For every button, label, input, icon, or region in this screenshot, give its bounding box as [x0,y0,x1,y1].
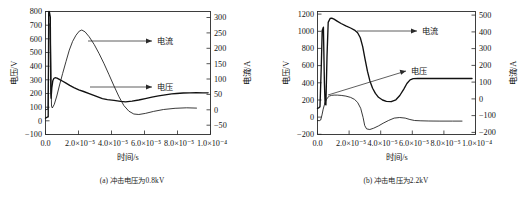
y2-tick-label: 300 [214,13,226,22]
y-tick-label: 200 [30,89,42,98]
y-tick-label: −100 [25,130,42,139]
y2-axis-ticks-a [207,18,211,126]
y-tick-label: 800 [30,7,42,16]
x-tick-label: 4.0×10⁻⁵ [98,139,128,148]
y2-tick-label: −200 [479,128,496,137]
x-tick-label: 6.0×10⁻⁵ [399,139,429,148]
y-tick-label: 100 [30,103,42,112]
panel-caption-a: (a) 冲击电压为0.8kV [0,174,264,185]
y-tick-label: 500 [30,48,42,57]
x-tick-label: 2.0×10⁻⁵ [336,139,366,148]
y-tick-label: 400 [30,62,42,71]
y2-tick-label: 100 [214,75,226,84]
y2-axis-title-b: 电流/A [508,61,518,85]
x-tick-label: 1.0×10⁻⁴ [462,139,492,148]
current-curve-b [318,95,463,129]
annotation-voltage-b: 电压 [328,66,427,95]
plot-frame-b [318,12,476,135]
arrowhead-icon [400,70,406,75]
arrowhead-icon [411,28,417,33]
y2-tick-label: 50 [214,90,222,99]
voltage-curve-a [46,12,209,119]
y-tick-label: −200 [297,130,314,139]
x-tick-label: 0.0 [40,139,50,148]
y-tick-label: 0 [310,113,314,122]
y2-tick-label: 400 [479,28,491,37]
y2-axis-labels-a: 300 250 200 150 100 50 0 −50 [214,13,227,130]
y-axis-title-a: 电压/V [9,61,19,85]
y-tick-label: 800 [302,44,314,53]
y-tick-label: 300 [30,76,42,85]
y2-axis-ticks-b [472,15,476,132]
chart-panel-a: 800 700 600 500 400 300 200 100 0 −100 [0,0,264,198]
annotation-label-current: 电流 [157,36,173,46]
y-tick-label: 1000 [298,27,314,36]
arrowhead-icon [146,38,152,43]
x-tick-label: 4.0×10⁻⁵ [367,139,397,148]
y-axis-title-b: 电压/V [281,61,291,85]
plot-frame-a [46,12,211,135]
y-tick-label: 700 [30,21,42,30]
y2-tick-label: 500 [479,11,491,20]
annotation-current-b: 电流 [357,26,438,36]
y2-tick-label: −50 [214,121,227,130]
y-tick-label: 400 [302,79,314,88]
y-tick-label: 1200 [298,10,314,19]
y2-tick-label: 0 [214,106,218,115]
y2-tick-label: −100 [479,111,496,120]
x-axis-labels-a: 0.0 2.0×10⁻⁵ 4.0×10⁻⁵ 6.0×10⁻⁵ 8.0×10⁻⁵ … [40,139,227,148]
x-axis-ticks-b [318,131,476,135]
x-tick-label: 2.0×10⁻⁵ [65,139,95,148]
y2-axis-labels-b: 500 400 300 200 100 0 −100 −200 [479,11,496,137]
y2-tick-label: 200 [214,44,226,53]
annotation-label-voltage: 电压 [157,82,173,92]
x-axis-labels-b: 0.0 2.0×10⁻⁵ 4.0×10⁻⁵ 6.0×10⁻⁵ 8.0×10⁻⁵ … [312,139,492,148]
x-axis-title-b: 时间/s [386,152,408,162]
annotation-label-current: 电流 [422,26,438,36]
y2-tick-label: 300 [479,44,491,53]
voltage-curve-b [318,18,473,108]
annotation-current-a: 电流 [88,36,173,46]
x-tick-label: 8.0×10⁻⁵ [430,139,460,148]
y2-tick-label: 200 [479,61,491,70]
x-axis-title-a: 时间/s [117,152,139,162]
x-tick-label: 6.0×10⁻⁵ [131,139,161,148]
x-tick-label: 8.0×10⁻⁵ [164,139,194,148]
chart-svg-a: 800 700 600 500 400 300 200 100 0 −100 [0,0,264,175]
figure-container: 800 700 600 500 400 300 200 100 0 −100 [0,0,529,198]
y2-tick-label: 0 [479,95,483,104]
arrowhead-icon [146,84,152,89]
y2-axis-title-a: 电流/A [242,61,252,85]
y-tick-label: 0 [38,117,42,126]
y-axis-labels-a: 800 700 600 500 400 300 200 100 0 −100 [25,7,42,139]
current-curve-a [46,24,197,115]
y-tick-label: 600 [30,35,42,44]
chart-svg-b: 1200 1000 800 600 400 200 0 −200 [264,0,529,175]
annotation-label-voltage: 电压 [411,66,427,76]
chart-panel-b: 1200 1000 800 600 400 200 0 −200 [264,0,528,198]
panel-caption-b: (b) 冲击电压为2.2kV [264,174,528,185]
x-tick-label: 0.0 [312,139,322,148]
y-axis-labels-b: 1200 1000 800 600 400 200 0 −200 [297,10,314,139]
y2-tick-label: 250 [214,29,226,38]
y-tick-label: 600 [302,61,314,70]
x-axis-ticks-a [46,131,211,135]
y2-tick-label: 150 [214,60,226,69]
y2-tick-label: 100 [479,78,491,87]
y-tick-label: 200 [302,96,314,105]
annotation-voltage-a: 电压 [90,82,173,92]
x-tick-label: 1.0×10⁻⁴ [197,139,227,148]
